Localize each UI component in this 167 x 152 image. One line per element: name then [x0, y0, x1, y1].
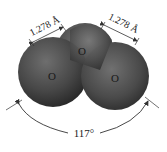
atom-label-top: O: [78, 45, 86, 57]
bond-length-left-label: 1.278 Å: [28, 13, 62, 38]
bond-length-right-label: 1.278 Å: [107, 11, 141, 36]
ozone-diagram: O O O 1.278 Å 1.278 Å 117°: [0, 0, 167, 152]
bond-angle-label: 117°: [74, 127, 95, 139]
atom-label-left: O: [48, 70, 56, 82]
bond-angle: 117°: [6, 97, 159, 139]
atom-label-right: O: [111, 72, 119, 84]
